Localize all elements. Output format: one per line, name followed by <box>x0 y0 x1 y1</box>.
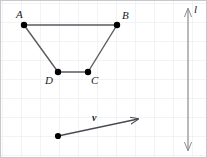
vertex-label-c: C <box>91 75 98 86</box>
geometry-figure-canvas: A B C D v l <box>0 0 207 158</box>
line-label-l: l <box>194 4 197 15</box>
figure-drawing-surface <box>0 0 207 158</box>
vertex-point-b <box>114 22 120 28</box>
vertex-label-d: D <box>45 75 53 86</box>
vertex-label-b: B <box>122 10 129 21</box>
vertex-point-d <box>55 69 61 75</box>
vertex-point-a <box>21 22 27 28</box>
vector-label-v: v <box>92 112 96 123</box>
background-grid <box>0 0 207 158</box>
vector-v-origin-point <box>55 133 61 139</box>
vertex-label-a: A <box>16 9 23 20</box>
